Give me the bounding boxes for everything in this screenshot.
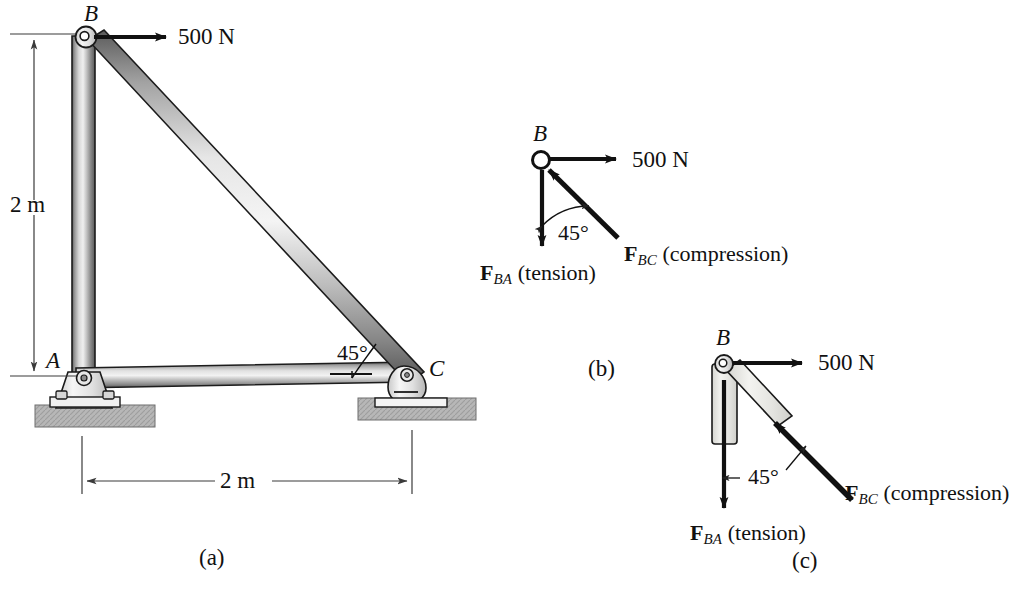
member-ab — [72, 36, 95, 380]
panel-a-joint-c-label: C — [429, 357, 444, 380]
member-ac — [76, 362, 412, 388]
panel-a-caption: (a) — [199, 546, 225, 569]
panel-b-force-ba-label: FBA (tension) — [480, 262, 596, 287]
panel-c-force-ba-note: (tension) — [728, 520, 806, 545]
panel-c-angle-label: 45° — [748, 466, 779, 488]
panel-c-load-label: 500 N — [818, 351, 875, 374]
panel-a-joint-b-label: B — [84, 2, 98, 25]
panel-a-vertical-dimension-label: 2 m — [10, 193, 45, 216]
panel-c-fbd — [712, 355, 852, 508]
panel-b-joint-label: B — [533, 122, 547, 145]
panel-a-horizontal-dimension-label: 2 m — [220, 469, 255, 492]
panel-b-load-label: 500 N — [632, 148, 689, 171]
panel-c-force-bc-symbol: F — [845, 480, 858, 505]
panel-b-force-ba-note: (tension) — [518, 260, 596, 285]
panel-c-force-ba-symbol: F — [690, 520, 703, 545]
panel-a-load-label: 500 N — [178, 25, 235, 48]
panel-a-angle-label: 45° — [337, 342, 368, 364]
pin-joint-b-c — [715, 355, 733, 373]
panel-b-force-bc-symbol: F — [624, 241, 637, 266]
panel-a-joint-a-label: A — [46, 349, 60, 372]
panel-b-force-bc-note: (compression) — [663, 241, 789, 266]
panel-c-force-ba-label: FBA (tension) — [690, 522, 806, 547]
panel-c-force-bc-subscript: BC — [858, 491, 878, 507]
panel-c-joint-label: B — [716, 326, 730, 349]
panel-c-force-bc-note: (compression) — [884, 480, 1009, 505]
joint-circle-b — [533, 152, 550, 169]
panel-c-force-bc-label: FBC (compression) — [845, 482, 1009, 507]
pin-joint-b — [76, 27, 97, 48]
panel-b-force-ba-subscript: BA — [493, 271, 512, 287]
panel-b-caption: (b) — [588, 357, 615, 380]
panel-b-angle-label: 45° — [558, 222, 589, 244]
force-arrow-fbc-c — [775, 423, 852, 500]
panel-b-force-bc-subscript: BC — [637, 252, 657, 268]
panel-b-force-bc-label: FBC (compression) — [624, 243, 788, 268]
panel-b-force-ba-symbol: F — [480, 260, 493, 285]
member-bc — [88, 30, 424, 384]
panel-a-truss — [10, 27, 476, 495]
panel-c-force-ba-subscript: BA — [703, 531, 722, 547]
panel-c-caption: (c) — [792, 549, 818, 572]
